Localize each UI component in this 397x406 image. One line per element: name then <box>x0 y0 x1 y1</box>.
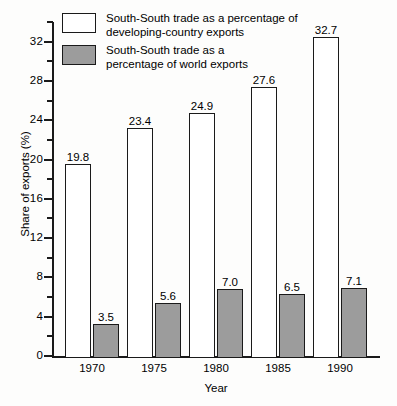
legend-item-developing-country-exports: South-South trade as a percentage of dev… <box>62 12 362 39</box>
bar-developing-country-exports: 19.8 <box>65 164 91 359</box>
bar-chart-figure: Share of exports (%) 048121620242832 19.… <box>0 0 397 406</box>
x-tick-label: 1980 <box>186 362 246 375</box>
x-axis-title: Year <box>52 382 380 394</box>
bar-world-exports: 3.5 <box>93 324 119 358</box>
bar-world-exports: 7.0 <box>217 289 243 358</box>
legend-label-dark: South-South trade as a percentage of wor… <box>106 44 248 71</box>
chart-legend: South-South trade as a percentage of dev… <box>62 12 362 76</box>
legend-item-world-exports: South-South trade as a percentage of wor… <box>62 44 362 71</box>
bar-value-label: 6.5 <box>284 281 300 293</box>
y-tick-label: 0 <box>3 349 43 361</box>
legend-swatch-light <box>62 13 96 33</box>
bar-value-label: 5.6 <box>160 290 176 302</box>
y-tick-label: 12 <box>3 231 43 243</box>
legend-label-light: South-South trade as a percentage of dev… <box>106 12 298 39</box>
y-tick-label: 16 <box>3 192 43 204</box>
bar-world-exports: 5.6 <box>155 303 181 358</box>
bar-value-label: 7.1 <box>346 275 362 287</box>
legend-swatch-dark <box>62 45 96 65</box>
bar-developing-country-exports: 32.7 <box>313 37 339 358</box>
y-tick-label: 20 <box>3 153 43 165</box>
y-tick-label: 4 <box>3 310 43 322</box>
y-tick-label: 28 <box>3 74 43 86</box>
x-tick-label: 1990 <box>310 362 370 375</box>
x-tick-label: 1975 <box>124 362 184 375</box>
y-tick-label: 8 <box>3 270 43 282</box>
bar-value-label: 23.4 <box>129 115 151 127</box>
bar-developing-country-exports: 27.6 <box>251 87 277 358</box>
bar-world-exports: 6.5 <box>279 294 305 358</box>
bar-value-label: 24.9 <box>191 100 213 112</box>
bar-world-exports: 7.1 <box>341 288 367 358</box>
y-tick-label: 32 <box>3 35 43 47</box>
bar-value-label: 3.5 <box>98 311 114 323</box>
bar-value-label: 19.8 <box>67 151 89 163</box>
x-tick-label: 1970 <box>62 362 122 375</box>
x-tick-label: 1985 <box>248 362 308 375</box>
bar-value-label: 7.0 <box>222 276 238 288</box>
bar-developing-country-exports: 23.4 <box>127 128 153 358</box>
bar-developing-country-exports: 24.9 <box>189 113 215 358</box>
y-tick-label: 24 <box>3 113 43 125</box>
